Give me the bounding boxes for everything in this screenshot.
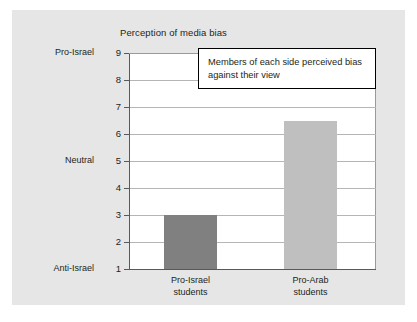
- y-axis-tick-label: 6: [97, 128, 121, 139]
- y-axis-tick-label: 9: [97, 47, 121, 58]
- y-axis-anchor-label: Anti-Israel: [30, 263, 94, 273]
- y-axis-tick: [124, 53, 129, 54]
- y-axis-anchor-label: Neutral: [30, 155, 94, 165]
- annotation-callout: Members of each side perceived bias agai…: [198, 48, 376, 89]
- x-axis-label: Pro-Arabstudents: [256, 275, 366, 298]
- gridline: [130, 107, 376, 108]
- bar: [284, 121, 337, 270]
- y-axis-tick: [124, 269, 129, 270]
- y-axis-tick: [124, 188, 129, 189]
- y-axis-tick-label: 7: [97, 101, 121, 112]
- y-axis-tick-label: 4: [97, 182, 121, 193]
- annotation-callout-text: Members of each side perceived bias agai…: [208, 56, 370, 81]
- y-axis-tick-label: 5: [97, 155, 121, 166]
- y-axis-tick: [124, 134, 129, 135]
- gridline: [130, 134, 376, 135]
- y-axis-tick: [124, 242, 129, 243]
- figure-panel: Perception of media bias 123456789 Pro-I…: [12, 10, 405, 305]
- x-axis-label-line: Pro-Israel: [136, 275, 246, 287]
- y-axis-tick-label: 1: [97, 263, 121, 274]
- x-axis-label-line: Pro-Arab: [256, 275, 366, 287]
- y-axis-tick: [124, 215, 129, 216]
- y-axis-anchor-label: Pro-Israel: [30, 47, 94, 57]
- bar: [164, 215, 217, 269]
- x-axis-label-line: students: [256, 287, 366, 299]
- gridline: [130, 188, 376, 189]
- y-axis-tick: [124, 161, 129, 162]
- y-axis-tick-label: 2: [97, 236, 121, 247]
- y-axis-tick-label: 8: [97, 74, 121, 85]
- y-axis-tick: [124, 107, 129, 108]
- x-axis-label: Pro-Israelstudents: [136, 275, 246, 298]
- y-axis-tick-label: 3: [97, 209, 121, 220]
- gridline: [130, 161, 376, 162]
- y-axis-tick: [124, 80, 129, 81]
- chart-title: Perception of media bias: [120, 27, 227, 38]
- x-axis-label-line: students: [136, 287, 246, 299]
